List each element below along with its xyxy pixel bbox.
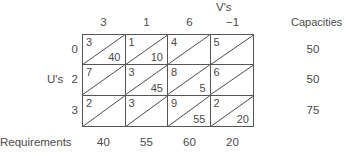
cell-allocation: 45 (151, 82, 163, 94)
requirements-label: Requirements (0, 136, 72, 148)
cell-allocation: 5 (199, 82, 205, 94)
tableau-cell: 2 (83, 96, 126, 126)
v-value: −1 (211, 16, 254, 28)
requirement-value: 20 (211, 136, 254, 148)
capacities-header: Capacities (291, 16, 342, 28)
u-value: 0 (64, 43, 78, 55)
cell-cost: 3 (129, 97, 135, 109)
cell-cost: 2 (86, 97, 92, 109)
tableau-cell: 6 (211, 65, 254, 95)
v-value: 6 (168, 16, 211, 28)
u-value: 2 (64, 73, 78, 85)
requirement-value: 55 (125, 136, 168, 148)
tableau-cell: 3 (126, 96, 169, 126)
v-value: 1 (125, 16, 168, 28)
cell-cost: 8 (171, 66, 177, 78)
cell-cost: 7 (86, 66, 92, 78)
tableau-cell: 8 5 (168, 65, 211, 95)
capacity-value: 50 (300, 73, 326, 85)
cell-cost: 1 (129, 36, 135, 48)
cell-allocation: 40 (108, 51, 120, 63)
tableau-cell: 7 (83, 65, 126, 95)
tableau-cell: 2 20 (211, 96, 254, 126)
cell-cost: 5 (214, 36, 220, 48)
transportation-tableau: 3 40 1 10 4 5 7 3 45 8 5 6 2 (82, 34, 254, 127)
cell-cost: 3 (86, 36, 92, 48)
capacity-value: 50 (300, 43, 326, 55)
v-value: 3 (82, 16, 125, 28)
capacity-value: 75 (300, 104, 326, 116)
cell-cost: 3 (129, 66, 135, 78)
cell-cost: 9 (171, 97, 177, 109)
cell-allocation: 20 (237, 113, 249, 125)
cell-cost: 4 (171, 36, 177, 48)
v-label: V's (216, 1, 232, 13)
tableau-cell: 3 45 (126, 65, 169, 95)
u-label: U's (47, 73, 63, 85)
requirement-value: 60 (168, 136, 211, 148)
tableau-cell: 1 10 (126, 35, 169, 65)
tableau-cell: 9 55 (168, 96, 211, 126)
tableau-cell: 4 (168, 35, 211, 65)
u-value: 3 (64, 104, 78, 116)
tableau-cell: 3 40 (83, 35, 126, 65)
cell-allocation: 10 (151, 51, 163, 63)
tableau-cell: 5 (211, 35, 254, 65)
cell-cost: 6 (214, 66, 220, 78)
cell-cost: 2 (214, 97, 220, 109)
requirement-value: 40 (82, 136, 125, 148)
cell-allocation: 55 (193, 113, 205, 125)
